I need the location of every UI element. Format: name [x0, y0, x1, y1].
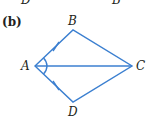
- angle-arc-bac: [44, 58, 48, 66]
- vertex-label-b: B: [68, 15, 77, 27]
- vertex-label-c: C: [136, 60, 145, 72]
- tick-ad: [53, 81, 59, 90]
- angle-arc-cad: [44, 66, 48, 74]
- vertex-label-a: A: [21, 60, 30, 72]
- tick-ab: [53, 42, 59, 51]
- vertex-label-d: D: [68, 106, 78, 118]
